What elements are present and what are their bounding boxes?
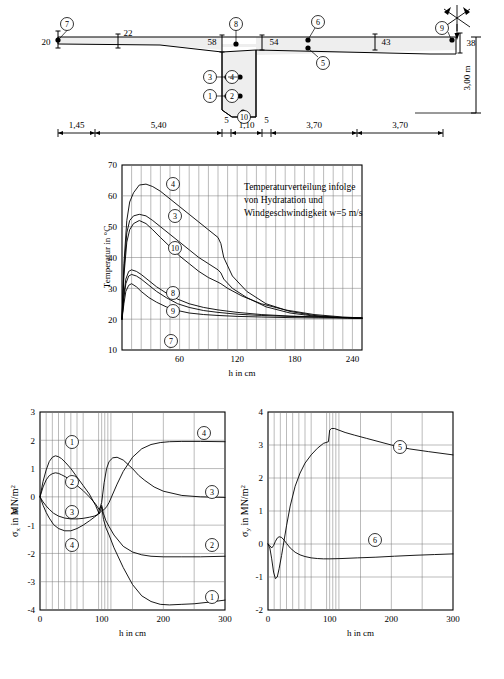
dim-arrow-2 (95, 131, 100, 135)
temp-chart-xtick-1: 120 (230, 354, 244, 364)
temp-chart-ytick-5: 60 (108, 191, 118, 201)
sigmax-curve-callout-6-label: 3 (210, 488, 214, 497)
sigmax-chart-ytick-3: -1 (28, 521, 36, 531)
callout-1-label: 1 (208, 92, 212, 101)
callout-7-label: 7 (65, 20, 69, 29)
sigmay-ylabel: σy in MN/m2 (239, 485, 252, 537)
temp-curve-callout-7-label: 7 (169, 337, 173, 346)
web-fill (222, 50, 256, 117)
dimension-label-0: 1,45 (69, 120, 85, 130)
sigmax-chart-ytick-6: 2 (31, 436, 36, 446)
wind-arrow-left (444, 7, 451, 15)
sigmax-curve-callout-0-label: 1 (70, 438, 74, 447)
sigmax-chart-ytick-4: 0 (31, 492, 36, 502)
sigmay-chart-ytick-0: -2 (256, 605, 264, 615)
temp-annotation-line-0: Temperaturverteilung infolge (244, 182, 355, 192)
temp-curve-callout-8-label: 8 (171, 289, 175, 298)
figure-root: 2022585443383,00 m786593412101,455,4051,… (0, 0, 504, 679)
node-5 (305, 45, 310, 50)
dimension-label-5: 3,70 (306, 120, 322, 130)
sigmay-chart-xlabel: h in cm (347, 628, 374, 638)
thickness-label-38: 38 (467, 38, 477, 48)
temp-chart-xtick-0: 60 (175, 354, 185, 364)
sigmay-chart-xtick-2: 200 (385, 614, 399, 624)
dimension-label-3: 1,10 (239, 120, 255, 130)
temp-curve-callout-4-label: 4 (171, 180, 175, 189)
sigmax-chart-ytick-2: -2 (28, 549, 36, 559)
sigmax-chart-xtick-0: 0 (38, 614, 43, 624)
sigmay-chart-xtick-1: 100 (323, 614, 337, 624)
node-8 (233, 41, 238, 46)
callout-4-label: 4 (230, 73, 234, 82)
sigmay-chart-ytick-4: 2 (259, 473, 264, 483)
dim-arrow-3 (217, 131, 222, 135)
sigmax-chart-ytick-0: -4 (28, 605, 36, 615)
temp-chart-xlabel: h in cm (229, 368, 256, 378)
callout-8-label: 8 (234, 20, 238, 29)
dim-arrow-9 (438, 131, 443, 135)
temp-annotation-line-2: Windgeschwindigkeit w=5 m/s (244, 208, 363, 218)
temp-chart-ylabel: Temperatur in °C (102, 226, 112, 288)
sigmax-chart-xtick-1: 100 (95, 614, 109, 624)
thickness-label-54: 54 (270, 37, 280, 47)
dim-arrow-4 (231, 131, 236, 135)
sigmax-curve-callout-2-label: 3 (70, 508, 74, 517)
dimension-label-2: 5 (224, 115, 229, 125)
sigmay-chart-ytick-5: 3 (259, 440, 264, 450)
temp-curve-callout-3-label: 3 (173, 212, 177, 221)
temp-annotation-line-1: von Hydratation und (244, 195, 323, 205)
dim-arrow-0 (58, 131, 63, 135)
sigmay-chart-xtick-0: 0 (266, 614, 271, 624)
temp-chart-ytick-0: 10 (108, 345, 118, 355)
callout-2-label: 2 (230, 92, 234, 101)
node-9 (449, 37, 454, 42)
sigmay-chart-ytick-6: 4 (259, 407, 264, 417)
sigmax-chart-ytick-1: -3 (28, 577, 36, 587)
wind-arrow-right (463, 7, 470, 15)
sigmax-curve-callout-3-label: 4 (70, 541, 74, 550)
sigmax-curve-callout-1-label: 2 (70, 478, 74, 487)
temp-curve-callout-9-label: 9 (171, 307, 175, 316)
thickness-label-20: 20 (42, 37, 52, 47)
node-7 (55, 37, 60, 42)
thickness-label-58: 58 (208, 37, 218, 47)
callout-5-label: 5 (321, 59, 325, 68)
callout-3-label: 3 (208, 73, 212, 82)
figure-canvas: 2022585443383,00 m786593412101,455,4051,… (0, 0, 504, 679)
height-dim-label: 3,00 m (462, 65, 472, 90)
sigmax-ylabel: σx in MN/m2 (9, 485, 22, 537)
dimension-label-4: 5 (264, 115, 269, 125)
dim-arrow-5 (257, 131, 262, 135)
sigmax-chart-ytick-7: 3 (31, 407, 36, 417)
sigmay-curve-callout-6-label: 6 (373, 536, 377, 545)
sigmax-curve-callout-4-label: 1 (210, 593, 214, 602)
sigmay-chart-ytick-1: -1 (256, 572, 264, 582)
sigmay-chart-ytick-2: 0 (259, 539, 264, 549)
node-6 (305, 37, 310, 42)
dim-arrow-7 (352, 131, 357, 135)
temp-chart-xtick-3: 240 (346, 354, 360, 364)
temp-chart-xtick-2: 180 (288, 354, 302, 364)
dim-arrow-8 (357, 131, 362, 135)
dim-arrow-1 (90, 131, 95, 135)
dimension-label-6: 3,70 (392, 120, 408, 130)
callout-9-label: 9 (440, 24, 444, 33)
sigmax-chart-ytick-5: 1 (31, 464, 36, 474)
dimension-label-1: 5,40 (151, 120, 167, 130)
sigmax-curve-callout-7-label: 4 (202, 429, 206, 438)
sigmay-chart-xtick-3: 300 (446, 614, 460, 624)
temp-curve-callout-10-label: 10 (171, 244, 179, 253)
sigmax-chart-xtick-2: 200 (157, 614, 171, 624)
dim-arrow-6 (271, 131, 276, 135)
sigmax-chart-xtick-3: 300 (218, 614, 232, 624)
temp-chart-ytick-1: 20 (108, 315, 118, 325)
thickness-label-22: 22 (124, 28, 133, 38)
sigmax-chart-xlabel: h in cm (119, 628, 146, 638)
callout-6-label: 6 (316, 18, 320, 27)
thickness-label-43: 43 (382, 37, 392, 47)
sigmay-chart-ytick-3: 1 (259, 506, 264, 516)
sigmay-curve-callout-5-label: 5 (398, 443, 402, 452)
sigmax-curve-callout-5-label: 2 (210, 541, 214, 550)
temp-chart-ytick-6: 70 (108, 160, 118, 170)
